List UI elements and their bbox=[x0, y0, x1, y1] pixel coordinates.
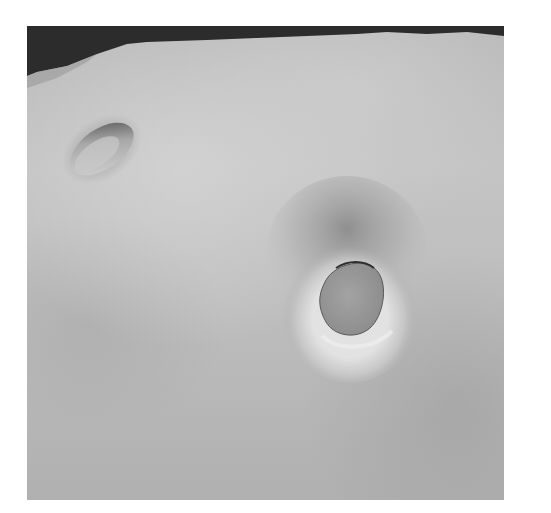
small-hole bbox=[57, 114, 147, 188]
render-frame bbox=[27, 26, 504, 500]
dark-background bbox=[27, 26, 504, 96]
large-hole bbox=[252, 176, 442, 400]
